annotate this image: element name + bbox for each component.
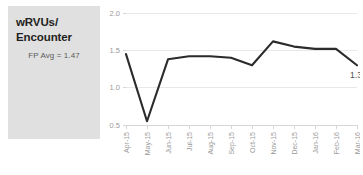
y-axis-tick-labels: 0.51.01.52.0 xyxy=(110,9,120,130)
line-chart: 0.51.01.52.0 Apr-15May-15Jun-15Jul-15Aug… xyxy=(104,4,360,174)
panel-title-line-2: Encounter xyxy=(16,30,92,45)
y-tick-label: 2.0 xyxy=(110,9,120,18)
x-tick-label: Oct-15 xyxy=(249,132,256,153)
x-tick-label: May-15 xyxy=(144,132,152,155)
panel-title: wRVUs/ Encounter xyxy=(16,15,92,44)
chart-label-panel: wRVUs/ Encounter FP Avg = 1.47 xyxy=(8,6,100,139)
data-point-label: 1.3 xyxy=(350,70,360,80)
x-tick-label: Jan-16 xyxy=(312,132,319,154)
x-tick-label: Feb-16 xyxy=(333,132,340,154)
x-tick-label: Apr-15 xyxy=(123,132,131,153)
x-axis-tick-labels: Apr-15May-15Jun-15Jul-15Aug-15Sep-15Oct-… xyxy=(123,132,360,155)
x-axis-tick-marks xyxy=(126,125,357,129)
x-tick-label: Sep-15 xyxy=(228,132,236,155)
x-tick-label: Aug-15 xyxy=(207,132,215,155)
panel-title-line-1: wRVUs/ xyxy=(16,15,92,30)
data-series-group xyxy=(126,41,357,121)
y-tick-label: 1.5 xyxy=(110,46,120,55)
gridlines-group xyxy=(123,13,357,125)
y-tick-label: 1.0 xyxy=(110,83,120,92)
x-tick-label: Mar-16 xyxy=(354,132,360,154)
chart-svg: 0.51.01.52.0 Apr-15May-15Jun-15Jul-15Aug… xyxy=(104,4,360,174)
x-tick-label: Nov-15 xyxy=(270,132,277,155)
x-tick-label: Dec-15 xyxy=(291,132,298,155)
x-tick-label: Jul-15 xyxy=(186,132,193,151)
chart-screenshot: wRVUs/ Encounter FP Avg = 1.47 0.51.01.5… xyxy=(0,0,363,175)
data-point-labels: 1.3 xyxy=(350,70,360,80)
panel-subtitle-average: FP Avg = 1.47 xyxy=(16,51,92,60)
x-tick-label: Jun-15 xyxy=(165,132,172,154)
y-tick-label: 0.5 xyxy=(110,121,120,130)
data-line xyxy=(126,41,357,121)
